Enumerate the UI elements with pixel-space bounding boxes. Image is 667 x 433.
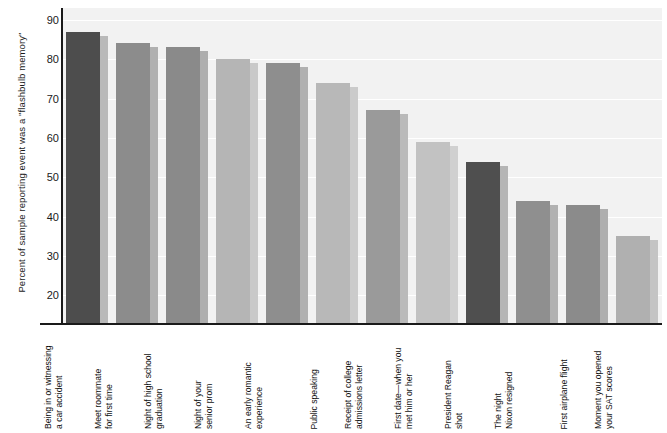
y-tick-label: 20 [33,289,59,301]
bar-face [466,162,500,323]
bar-shadow [250,63,258,323]
y-axis-line [61,8,63,323]
x-axis-label-text: Being in or witnessinga car accident [43,345,64,429]
bar-face [116,43,150,323]
x-axis-label-text: Meet roommatefor first time [93,369,114,429]
bar-shadow [450,146,458,323]
plot-area [62,8,662,323]
bar [366,106,408,323]
y-tick-label: 30 [33,250,59,262]
bar-shadow [200,51,208,323]
bar [166,43,208,323]
bar [516,197,558,323]
bar-shadow [600,209,608,323]
bar-face [516,201,550,323]
x-axis-line [40,323,662,325]
bar [416,138,458,323]
bar [116,39,158,323]
bar-face [216,59,250,323]
x-axis-label: An early romanticexperience [262,326,312,431]
x-axis-label-text: The nightNixon resigned [493,372,514,429]
bar-face [416,142,450,323]
bar [216,55,258,323]
y-tick-label: 90 [33,14,59,26]
y-tick-label: 70 [33,93,59,105]
x-axis-label: Moment you openedyour SAT scores [612,326,662,431]
bar-shadow [650,240,658,323]
x-axis-label-text: Night of yoursenior prom [193,380,214,429]
bar-shadow [400,114,408,323]
x-axis-labels: Being in or witnessinga car accidentMeet… [62,326,662,433]
y-tick-label: 50 [33,171,59,183]
bar-face [166,47,200,323]
bar-face [266,63,300,323]
x-axis-label-text: Night of high schoolgraduation [143,354,164,429]
x-axis-label-text: Moment you openedyour SAT scores [593,351,614,429]
bar [66,28,108,323]
bar-face [616,236,650,323]
bar-shadow [550,205,558,323]
bar-face [566,205,600,323]
bar-face [316,83,350,323]
bar [316,79,358,323]
x-axis-label-text: Public speaking [309,369,320,429]
y-axis-title-text: Percent of sample reporting event was a … [16,32,27,292]
bar [266,59,308,323]
flashbulb-memory-bar-chart: Percent of sample reporting event was a … [0,0,667,433]
bar-shadow [100,36,108,323]
bar-shadow [150,47,158,323]
bar-face [66,32,100,323]
bar [466,158,508,323]
bar-shadow [350,87,358,323]
x-axis-label-text: President Reaganshot [443,360,464,429]
x-axis-label: The nightNixon resigned [512,326,562,431]
y-tick-label: 60 [33,132,59,144]
x-axis-label-text: Receipt of collegeadmissions letter [343,361,364,429]
x-axis-label-text: First airplane flight [559,359,570,429]
y-tick-label: 80 [33,53,59,65]
gridline [62,20,662,21]
bar-shadow [500,166,508,323]
bar-face [366,110,400,323]
x-axis-label-text: An early romanticexperience [243,362,264,429]
x-axis-label-text: First date—when youmet him or her [393,348,414,429]
bar [616,232,658,323]
bar [566,201,608,323]
y-tick-label: 40 [33,211,59,223]
bar-shadow [300,67,308,323]
y-axis-title: Percent of sample reporting event was a … [10,0,32,325]
